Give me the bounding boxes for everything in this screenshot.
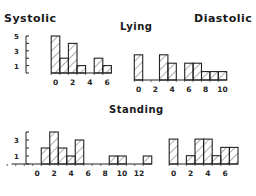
- histogram-bar: [94, 58, 103, 73]
- histogram-bar: [109, 156, 118, 164]
- histogram-bar: [193, 63, 201, 80]
- x-tick-label: 0: [171, 169, 176, 178]
- x-tick-label: 4: [169, 85, 174, 94]
- y-tick-label: 3: [14, 48, 19, 56]
- x-tick-label: 0: [53, 78, 58, 87]
- histogram-bar: [168, 63, 176, 80]
- x-tick-label: 0: [136, 85, 141, 94]
- histogram-bar: [212, 156, 221, 164]
- x-tick-label: 2: [153, 85, 158, 94]
- x-tick-label: 8: [102, 169, 107, 178]
- histogram-bar: [58, 148, 67, 164]
- y-tick-label: 1: [14, 63, 19, 71]
- systolic-title: Systolic: [4, 12, 57, 25]
- x-tick-label: 2: [51, 169, 56, 178]
- histogram-bar: [221, 147, 230, 164]
- x-tick-label: 10: [117, 169, 127, 178]
- histogram-bar: [185, 63, 193, 80]
- standing-title: Standing: [109, 104, 164, 115]
- x-tick-label: 4: [205, 169, 210, 178]
- histogram-bar: [229, 147, 238, 164]
- histogram-bar: [186, 156, 195, 164]
- y-tick-label: 3: [14, 137, 19, 145]
- histogram-panel-0: 0246135: [14, 33, 111, 87]
- histogram-bar: [195, 139, 204, 164]
- histogram-bar: [204, 139, 213, 164]
- lying-title: Lying: [120, 21, 152, 32]
- histogram-bar: [67, 156, 76, 164]
- x-tick-label: 6: [104, 78, 109, 87]
- histogram-bar: [51, 36, 60, 73]
- histogram-bar: [134, 55, 142, 80]
- y-tick-label: 5: [14, 33, 19, 41]
- x-tick-label: 0: [34, 169, 39, 178]
- histogram-bar: [50, 132, 59, 164]
- histogram-bar: [160, 55, 168, 80]
- histogram-bar: [103, 66, 112, 73]
- x-tick-label: 12: [134, 169, 144, 178]
- histogram-bar: [143, 156, 152, 164]
- histogram-bar: [41, 148, 50, 164]
- histogram-panel-3: 0246: [169, 139, 238, 178]
- histogram-bar: [60, 58, 69, 73]
- x-tick-label: 2: [70, 78, 75, 87]
- x-tick-label: 2: [188, 169, 193, 178]
- histogram-bar: [68, 43, 77, 73]
- x-tick-label: 6: [186, 85, 191, 94]
- histogram-panel-2: 02468101213: [7, 132, 152, 178]
- histogram-panel-1: 0246810: [134, 55, 227, 94]
- x-tick-label: 10: [217, 85, 227, 94]
- x-tick-label: 6: [85, 169, 90, 178]
- histogram-bar: [75, 140, 84, 164]
- diastolic-title: Diastolic: [194, 12, 252, 25]
- histogram-bar: [169, 139, 178, 164]
- x-tick-label: 4: [87, 78, 92, 87]
- x-tick-label: 8: [203, 85, 208, 94]
- y-tick-label: 1: [14, 153, 19, 161]
- histogram-bar: [210, 72, 218, 80]
- histogram-bar: [202, 72, 210, 80]
- histogram-bar: [118, 156, 127, 164]
- histogram-bar: [218, 72, 226, 80]
- x-tick-label: 6: [222, 169, 227, 178]
- histogram-bar: [77, 66, 86, 73]
- x-tick-label: 4: [68, 169, 73, 178]
